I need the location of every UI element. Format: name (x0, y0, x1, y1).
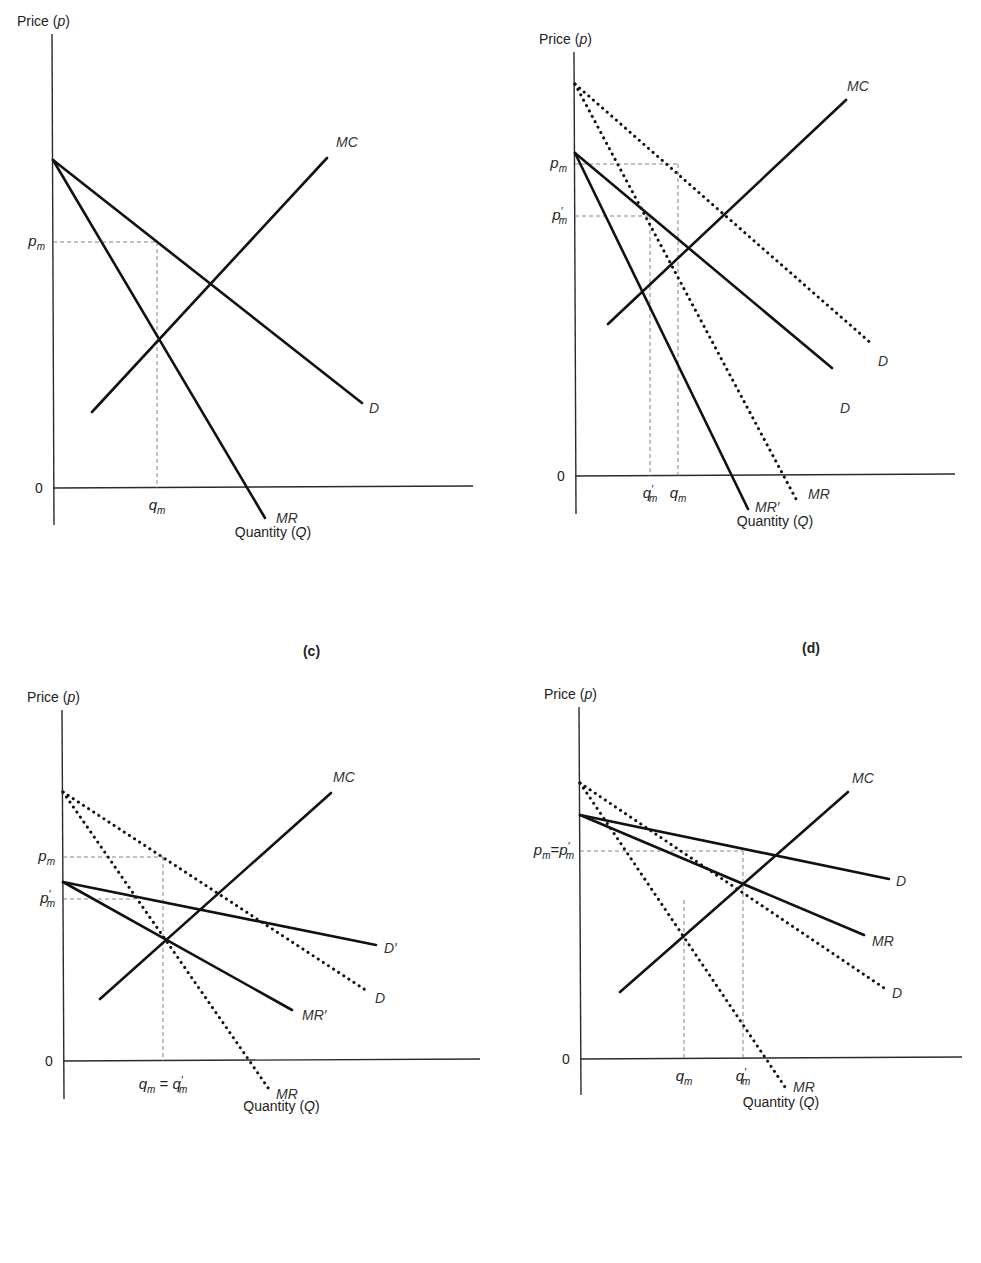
origin-label: 0 (35, 480, 43, 496)
origin-label: 0 (45, 1053, 53, 1069)
curve-label: MR (276, 510, 298, 526)
curve-label: D (369, 400, 379, 416)
y-tick-label: pm=p′m (533, 840, 574, 861)
curve-mr-solid (580, 815, 864, 935)
curve-mc-solid (620, 792, 848, 992)
curve-label: D′ (384, 940, 398, 956)
x-tick-label: qm = q′m (139, 1074, 188, 1095)
panel-c: (c)Price (p)Quantity (Q)0MCDMRD′MR′pmp′m… (27, 643, 480, 1114)
curve-label: MC (336, 134, 359, 150)
curve-label: MC (852, 770, 875, 786)
curve-label: MR (793, 1079, 815, 1095)
x-axis (575, 474, 955, 476)
panel-b: Price (p)Quantity (Q)0MCDMRDMR′pmp′mq′mq… (539, 31, 955, 529)
y-tick-label: p′m (551, 205, 567, 226)
x-axis (63, 1059, 480, 1061)
x-axis-title: Quantity (Q) (235, 524, 311, 540)
x-tick-label: qm (149, 496, 166, 516)
curve-d-solid (580, 815, 889, 879)
monopoly-demand-shift-figure: Price (p)Quantity (Q)0MCDMRpmqmPrice (p)… (0, 0, 981, 1263)
y-tick-label: pm (549, 154, 567, 174)
panel-title: (c) (303, 643, 320, 659)
curve-label: MR′ (755, 499, 781, 515)
curve-label: MR (808, 486, 830, 502)
y-axis-title: Price (p) (17, 13, 70, 29)
panel-title: (d) (802, 640, 820, 656)
x-axis-title: Quantity (Q) (743, 1094, 819, 1110)
curve-label: D (840, 400, 850, 416)
curve-d-dotted (580, 783, 884, 988)
x-axis (53, 486, 473, 488)
y-axis (579, 707, 581, 1095)
y-axis (62, 710, 64, 1099)
x-tick-label: qm (670, 484, 687, 504)
x-axis-title: Quantity (Q) (737, 513, 813, 529)
curve-label: MR′ (302, 1007, 328, 1023)
curve-mr-solid (53, 160, 265, 518)
x-tick-label: q′m (736, 1066, 751, 1087)
y-axis-title: Price (p) (27, 689, 80, 705)
curve-label: MR (872, 933, 894, 949)
curve-d-solid (53, 160, 362, 403)
y-axis-title: Price (p) (539, 31, 592, 47)
panel-a: Price (p)Quantity (Q)0MCDMRpmqm (17, 13, 473, 540)
x-tick-label: qm (676, 1067, 693, 1087)
x-axis (580, 1057, 962, 1059)
origin-label: 0 (557, 468, 565, 484)
curve-mr-dotted (575, 84, 796, 499)
curve-mr-prime-solid (575, 153, 748, 509)
curve-label: D (896, 873, 906, 889)
y-tick-label: pm (37, 847, 55, 867)
curve-mr-prime-solid (63, 882, 292, 1010)
curve-label: MC (847, 78, 870, 94)
y-axis-title: Price (p) (544, 686, 597, 702)
curve-label: D (878, 353, 888, 369)
curve-label: MC (333, 769, 356, 785)
y-axis (52, 34, 54, 525)
origin-label: 0 (562, 1051, 570, 1067)
chart-canvas: Price (p)Quantity (Q)0MCDMRpmqmPrice (p)… (0, 0, 981, 1263)
panel-d: (d)Price (p)Quantity (Q)0MCDMRDMRpm=p′mq… (533, 640, 962, 1110)
curve-label: D (375, 990, 385, 1006)
curve-label: D (892, 985, 902, 1001)
x-tick-label: q′m (643, 483, 658, 504)
y-tick-label: pm (27, 232, 45, 252)
curve-d-solid (575, 153, 832, 368)
y-axis (574, 52, 576, 514)
curve-mr-dotted (63, 792, 271, 1092)
curve-label: MR (276, 1086, 298, 1102)
y-tick-label: p′m (39, 888, 55, 909)
